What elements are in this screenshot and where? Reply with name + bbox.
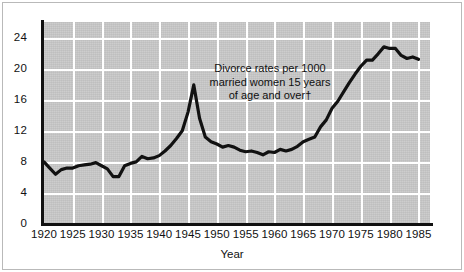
chart-annotation-text: Divorce rates per 1000 married women 15 …	[185, 62, 355, 103]
y-tick-label-12: 12	[0, 124, 27, 136]
y-tick-label-0: 0	[0, 217, 27, 229]
gridline-x-1965	[303, 22, 305, 224]
y-axis-line	[41, 20, 44, 226]
y-tick-label-24: 24	[0, 31, 27, 43]
gridline-x-1955	[246, 22, 248, 224]
gridline-x-1985	[418, 22, 420, 224]
gridline-x-1975	[361, 22, 363, 224]
gridline-x-1925	[73, 22, 75, 224]
y-tick-label-20: 20	[0, 62, 27, 74]
y-tick-label-8: 8	[0, 155, 27, 167]
gridline-x-1940	[159, 22, 161, 224]
gridline-x-1950	[217, 22, 219, 224]
gridline-x-1935	[130, 22, 132, 224]
gridline-x-1945	[188, 22, 190, 224]
gridline-x-1930	[102, 22, 104, 224]
x-axis-line	[41, 223, 433, 226]
figure-container: 04812162024 1920192519301935194019451950…	[0, 0, 464, 272]
gridline-x-1960	[274, 22, 276, 224]
gridline-x-1980	[390, 22, 392, 224]
plot-area	[44, 22, 430, 224]
x-axis-title: Year	[0, 248, 464, 260]
y-tick-label-4: 4	[0, 186, 27, 198]
gridline-x-1970	[332, 22, 334, 224]
y-tick-label-16: 16	[0, 93, 27, 105]
x-tick-label-1985: 1985	[398, 228, 438, 240]
